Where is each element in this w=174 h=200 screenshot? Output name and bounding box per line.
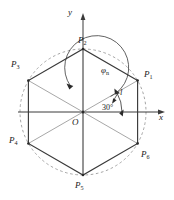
vertex-label-P2: P2 [78, 36, 87, 46]
phi-subscript: n [106, 70, 109, 76]
vertex-label-P4: P4 [9, 136, 18, 146]
vertex-P3-sub: 3 [17, 64, 20, 70]
origin-point [82, 111, 85, 114]
hexagon-diagram [0, 0, 174, 200]
angle-30-label: 30° [102, 104, 113, 112]
vertex-label-P1: P1 [144, 70, 153, 80]
x-axis-label: x [159, 113, 163, 122]
vertex-label-P6: P6 [141, 150, 150, 160]
x-axis [18, 110, 165, 115]
vertex-P5-sub: 5 [81, 185, 84, 191]
vertex-P4-sub: 4 [15, 140, 18, 146]
phi-label: φn [101, 66, 109, 76]
vertex-P1-sub: 1 [150, 74, 153, 80]
side-length-label: l [120, 88, 122, 97]
y-axis-label: y [68, 8, 72, 17]
vertex-P6-sub: 6 [147, 154, 150, 160]
vertex-P2-sub: 2 [84, 40, 87, 46]
vertex-label-P5: P5 [75, 181, 84, 191]
origin-label: O [72, 118, 79, 127]
vertex-label-P3: P3 [11, 60, 20, 70]
figure-container: y x O 30° φn l P1 P2 P3 P4 P5 P6 [0, 0, 174, 200]
